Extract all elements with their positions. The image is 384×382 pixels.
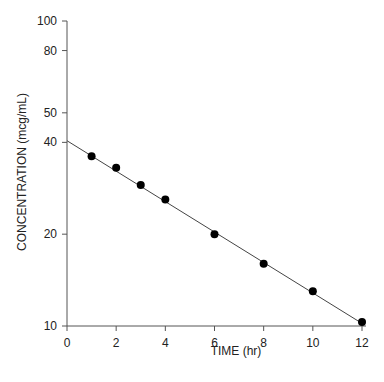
y-tick-label: 40: [44, 135, 58, 149]
concentration-time-chart: 1020405080100 024681012 TIME (hr) CONCEN…: [0, 0, 384, 382]
y-tick-label: 100: [37, 14, 57, 28]
y-tick-label: 20: [44, 227, 58, 241]
data-point: [161, 195, 169, 203]
data-point: [88, 152, 96, 160]
y-axis-label: CONCENTRATION (mcg/mL): [15, 93, 29, 251]
x-tick-label: 12: [355, 336, 369, 350]
axes: [67, 21, 366, 326]
y-axis-ticks: 1020405080100: [37, 14, 67, 333]
y-tick-label: 10: [44, 319, 58, 333]
x-tick-label: 4: [162, 336, 169, 350]
data-point: [112, 164, 120, 172]
x-tick-label: 10: [306, 336, 320, 350]
data-point: [211, 230, 219, 238]
data-point: [309, 287, 317, 295]
y-tick-label: 80: [44, 44, 58, 58]
x-tick-label: 0: [64, 336, 71, 350]
data-point: [137, 181, 145, 189]
data-point: [358, 318, 366, 326]
data-point: [260, 260, 268, 268]
x-axis-label: TIME (hr): [211, 344, 262, 358]
x-tick-label: 8: [260, 336, 267, 350]
y-tick-label: 50: [44, 106, 58, 120]
x-tick-label: 2: [113, 336, 120, 350]
